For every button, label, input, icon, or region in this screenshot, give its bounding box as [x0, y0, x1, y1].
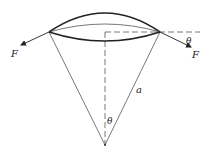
label-force-left: F	[10, 48, 19, 59]
cap-upper-arc	[49, 13, 160, 32]
label-angle-rim: θ	[186, 36, 192, 46]
force-arrow-left	[21, 32, 49, 45]
cone-right-side	[105, 32, 160, 145]
cap-middle-arc	[49, 24, 160, 32]
cap-diagram: F F θ a θ	[0, 0, 211, 153]
apex-point	[104, 144, 106, 146]
label-radius-a: a	[136, 84, 142, 95]
label-angle-apex: θ	[107, 116, 113, 126]
cap-lower-arc	[49, 32, 160, 41]
label-force-right: F	[191, 49, 200, 60]
cone-left-side	[49, 32, 105, 145]
